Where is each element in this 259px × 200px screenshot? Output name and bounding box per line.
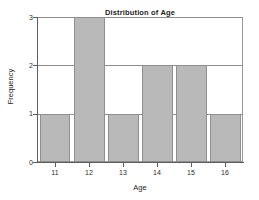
x-axis-line [37, 162, 244, 163]
y-tick-mark-0 [33, 162, 37, 163]
x-tick-mark-14 [157, 163, 158, 167]
y-tick-0: 0 [16, 159, 33, 166]
gridline-y3 [37, 17, 243, 18]
x-tick-label-13: 13 [113, 169, 133, 177]
x-tick-mark-15 [191, 163, 192, 167]
bar-age-12 [74, 17, 105, 162]
bar-age-15 [176, 65, 207, 162]
y-tick-label-0: 0 [21, 159, 33, 166]
x-tick-label-11: 11 [45, 169, 65, 177]
y-tick-label-3: 3 [21, 14, 33, 21]
y-tick-3: 3 [16, 14, 33, 21]
y-tick-1: 1 [16, 110, 33, 117]
y-tick-mark-2 [33, 65, 37, 66]
x-axis-title: Age [37, 183, 243, 192]
y-tick-label-2: 2 [21, 62, 33, 69]
x-tick-mark-12 [89, 163, 90, 167]
histogram-chart: Distribution of Age 3 2 1 0 11 12 13 14 … [0, 0, 259, 200]
y-tick-mark-1 [33, 114, 37, 115]
y-axis-line [37, 17, 38, 163]
x-tick-label-12: 12 [79, 169, 99, 177]
x-tick-mark-13 [123, 163, 124, 167]
gridline-y2 [37, 65, 243, 66]
bar-age-14 [142, 65, 173, 162]
y-tick-2: 2 [16, 62, 33, 69]
x-tick-label-16: 16 [215, 169, 235, 177]
x-tick-mark-16 [225, 163, 226, 167]
bar-age-11 [40, 114, 70, 163]
bar-age-16 [210, 114, 241, 163]
x-tick-mark-11 [55, 163, 56, 167]
bar-age-13 [108, 114, 139, 163]
y-tick-mark-3 [33, 17, 37, 18]
x-tick-label-15: 15 [181, 169, 201, 177]
x-tick-label-14: 14 [147, 169, 167, 177]
plot-area [37, 17, 243, 162]
y-tick-label-1: 1 [21, 110, 33, 117]
chart-title: Distribution of Age [37, 8, 243, 17]
y-axis-title: Frequency [6, 57, 15, 117]
